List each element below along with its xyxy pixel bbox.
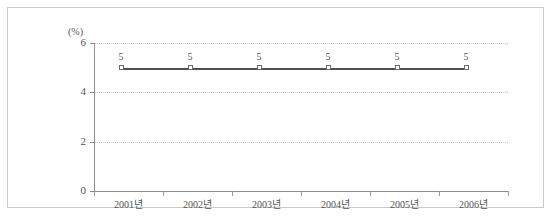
- data-point-marker: [464, 65, 469, 70]
- gridline-4: [94, 92, 508, 93]
- data-point-label: 5: [385, 51, 409, 62]
- x-category-label-2002: 2002년: [163, 196, 232, 211]
- data-point-label: 5: [247, 51, 271, 62]
- y-tick-mark-2: [90, 142, 94, 143]
- data-point-label: 5: [178, 51, 202, 62]
- x-category-label-2006: 2006년: [439, 196, 508, 211]
- data-point-marker: [326, 65, 331, 70]
- data-point-label: 5: [109, 51, 133, 62]
- x-category-label-2001: 2001년: [94, 196, 163, 211]
- y-tick-label-6: 6: [56, 37, 86, 48]
- data-point-marker: [119, 65, 124, 70]
- chart-screenshot: (%) 5 5 5 5 5 5 6 4 2 0: [0, 0, 551, 217]
- x-category-label-2004: 2004년: [301, 196, 370, 211]
- plot-area: 5 5 5 5 5 5: [94, 43, 508, 191]
- y-tick-mark-6: [90, 43, 94, 44]
- x-tick-mark: [508, 191, 509, 196]
- x-category-label-2005: 2005년: [370, 196, 439, 211]
- y-axis-line: [94, 43, 95, 191]
- data-point-label: 5: [316, 51, 340, 62]
- y-tick-label-0: 0: [56, 185, 86, 196]
- x-category-label-2003: 2003년: [232, 196, 301, 211]
- y-tick-mark-4: [90, 92, 94, 93]
- gridline-2: [94, 142, 508, 143]
- data-point-marker: [395, 65, 400, 70]
- chart-frame: (%) 5 5 5 5 5 5 6 4 2 0: [7, 7, 544, 208]
- gridline-6: [94, 43, 508, 44]
- data-point-label: 5: [454, 51, 478, 62]
- y-tick-label-4: 4: [56, 86, 86, 97]
- data-point-marker: [188, 65, 193, 70]
- series-line: [121, 68, 466, 70]
- data-point-marker: [257, 65, 262, 70]
- y-tick-label-2: 2: [56, 136, 86, 147]
